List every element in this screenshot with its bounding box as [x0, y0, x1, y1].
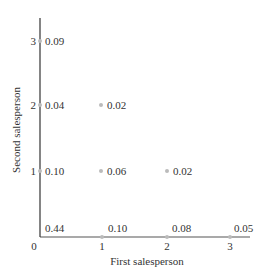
x-tick-1: 1: [99, 240, 105, 252]
point-0-2: [38, 103, 42, 107]
label-1-2: 0.02: [107, 99, 126, 111]
x-axis-label: First salesperson: [110, 255, 184, 267]
y-tick-2: 2: [31, 99, 37, 111]
point-1-0: [100, 235, 104, 239]
x-tick-0: 0: [31, 240, 37, 252]
label-1-1: 0.06: [107, 165, 127, 177]
y-tick-3: 3: [31, 35, 37, 47]
x-tick-2: 2: [164, 240, 170, 252]
point-2-1: [165, 169, 169, 173]
point-0-3: [38, 39, 42, 43]
y-axis-label: Second salesperson: [10, 87, 22, 173]
label-2-1: 0.02: [173, 165, 192, 177]
x-tick-3: 3: [227, 240, 233, 252]
point-1-1: [99, 169, 103, 173]
label-2-0: 0.08: [172, 222, 192, 234]
label-3-0: 0.05: [234, 222, 254, 234]
label-0-3: 0.09: [45, 35, 65, 47]
label-1-0: 0.10: [108, 222, 128, 234]
y-tick-1: 1: [31, 165, 37, 177]
point-2-0: [165, 235, 169, 239]
probability-scatter-chart: 0 1 2 3 1 2 3 First salesperson Second s…: [0, 0, 269, 277]
point-0-1: [38, 169, 42, 173]
label-0-2: 0.04: [45, 99, 65, 111]
data-points: [38, 39, 232, 239]
label-0-0: 0.44: [45, 222, 65, 234]
point-3-0: [228, 235, 232, 239]
point-1-2: [99, 103, 103, 107]
label-0-1: 0.10: [45, 165, 65, 177]
